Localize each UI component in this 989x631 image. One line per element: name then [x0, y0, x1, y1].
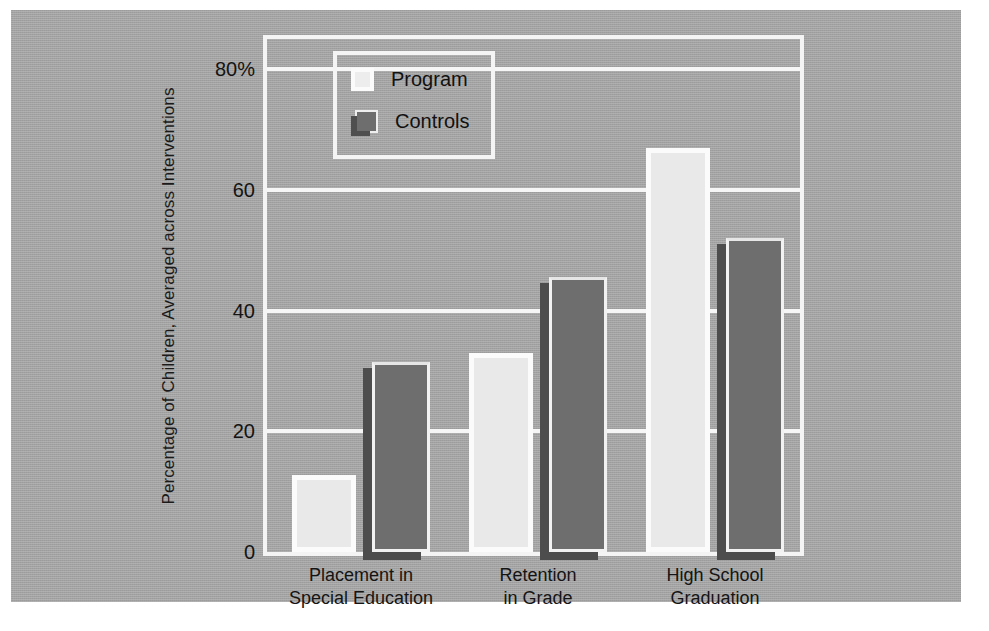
y-tick-label: 0	[244, 541, 255, 564]
legend-item-program: Program	[351, 68, 468, 91]
gridline	[267, 188, 800, 192]
y-tick-label: 80%	[215, 58, 255, 81]
legend-label-program: Program	[391, 68, 468, 91]
y-axis-title: Percentage of Children, Averaged across …	[159, 56, 179, 536]
bar-shadow-3d	[717, 552, 775, 560]
legend-label-controls: Controls	[395, 110, 469, 133]
bar-shadow-3d	[363, 552, 421, 560]
figure-root: Percentage of Children, Averaged across …	[0, 0, 989, 631]
bar-program	[469, 353, 533, 552]
y-tick-label: 60	[233, 178, 255, 201]
bar-program	[292, 475, 356, 552]
bar-face	[469, 353, 533, 552]
bar-controls	[372, 362, 430, 552]
bar-face	[549, 277, 607, 552]
bar-side-3d	[717, 244, 726, 560]
legend-swatch-controls-icon	[355, 110, 378, 133]
x-axis-category-label: High SchoolGraduation	[575, 564, 855, 610]
y-tick-label: 40	[233, 299, 255, 322]
y-tick-label: 20	[233, 420, 255, 443]
legend-item-controls: Controls	[351, 110, 469, 133]
bar-face	[292, 475, 356, 552]
chart-canvas: Percentage of Children, Averaged across …	[11, 10, 961, 602]
x-axis-category-line: Graduation	[575, 587, 855, 610]
legend-swatch-shadow	[351, 131, 370, 136]
x-axis-category-line: High School	[575, 564, 855, 587]
legend-swatch-program-icon	[351, 68, 374, 91]
bar-shadow-3d	[540, 552, 598, 560]
bar-controls	[726, 238, 784, 552]
bar-face	[646, 148, 710, 552]
bar-side-3d	[363, 368, 372, 560]
chart-legend: Program Controls	[333, 51, 495, 159]
bar-side-3d	[540, 283, 549, 560]
bar-face	[726, 238, 784, 552]
bar-program	[646, 148, 710, 552]
bar-face	[372, 362, 430, 552]
bar-controls	[549, 277, 607, 552]
plot-area: 020406080% Program Controls	[263, 35, 804, 556]
plot-inner: 020406080% Program Controls	[267, 39, 800, 552]
